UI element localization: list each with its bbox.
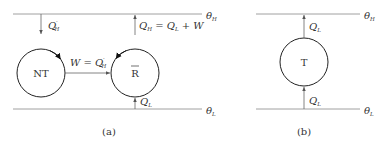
heat-out-t-label: QL: [309, 21, 321, 33]
caption-a: (a): [102, 126, 116, 137]
theta-h-label-b: θH: [364, 10, 375, 22]
theta-l-label-a: θL: [206, 105, 216, 117]
engine-r-label: R: [131, 68, 139, 79]
engine-nt-label: NT: [33, 68, 49, 79]
heat-in-r-label: QL: [140, 96, 152, 108]
diagram-a: θH θL NT Q′H R W = Q′H QH = QL + W QL (a…: [13, 10, 217, 137]
heat-in-t-label: QL: [309, 95, 321, 107]
thermodynamics-diagram: θH θL NT Q′H R W = Q′H QH = QL + W QL (a…: [0, 0, 382, 148]
engine-t-label: T: [301, 57, 308, 68]
theta-l-label-b: θL: [364, 105, 374, 117]
theta-h-label-a: θH: [206, 10, 217, 22]
cycle-arrow-nt-icon: [50, 51, 61, 59]
diagram-b: θH θL T QL QL (b): [256, 10, 375, 137]
cycle-arrow-r-icon: [116, 51, 126, 59]
work-label: W = Q′H: [70, 57, 106, 69]
caption-b: (b): [297, 126, 311, 137]
heat-in-nt-label: Q′H: [48, 20, 59, 32]
heat-out-r-label: QH = QL + W: [139, 20, 204, 32]
